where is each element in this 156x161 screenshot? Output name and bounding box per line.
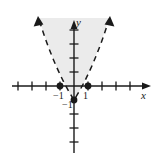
parabola-graph-figure: y x −1 1 −1	[0, 0, 156, 161]
x-axis-label: x	[141, 90, 146, 101]
x-intercept-left-dot	[57, 83, 64, 90]
y-tick-label-negative-one: −1	[62, 100, 73, 110]
x-intercept-right-dot	[85, 83, 92, 90]
x-tick-label-positive-one: 1	[83, 91, 88, 101]
y-axis-label: y	[76, 17, 81, 28]
